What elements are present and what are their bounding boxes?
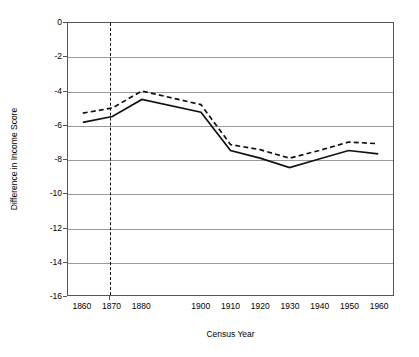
x-tick-label-1920: 1920 <box>251 302 270 311</box>
x-tick-label-1900: 1900 <box>191 302 210 311</box>
x-tick-label-1950: 1950 <box>340 302 359 311</box>
x-tick-label-1860: 1860 <box>72 302 91 311</box>
x-tick-label-1910: 1910 <box>221 302 240 311</box>
plot-area <box>67 22 394 296</box>
y-tick-label--6: -6 <box>54 121 62 130</box>
x-tick-label-1880: 1880 <box>132 302 151 311</box>
x-tick-mark-1869 <box>109 296 110 300</box>
y-tick-label--10: -10 <box>50 189 62 198</box>
x-tick-label-1960: 1960 <box>370 302 389 311</box>
x-tick-label-1870: 1870 <box>102 302 121 311</box>
income-score-line-chart: 0-2-4-6-8-10-12-14-16 186018701880190019… <box>0 0 419 357</box>
y-axis-title: Difference in Income Score <box>10 22 22 296</box>
y-tick-label--14: -14 <box>50 258 62 267</box>
x-tick-label-1930: 1930 <box>280 302 299 311</box>
y-tick-label--8: -8 <box>54 155 62 164</box>
y-tick-label--12: -12 <box>50 223 62 232</box>
x-axis-title: Census Year <box>67 330 394 339</box>
y-tick-label-0: 0 <box>57 18 62 27</box>
y-tick-label--16: -16 <box>50 292 62 301</box>
x-axis-tick-labels: 1860187018801900191019201930194019501960 <box>67 302 394 316</box>
series-line-dashed-series <box>83 91 378 158</box>
data-series-layer <box>68 23 393 295</box>
y-tick-label--2: -2 <box>54 52 62 61</box>
x-tick-label-1940: 1940 <box>310 302 329 311</box>
y-tick-label--4: -4 <box>54 86 62 95</box>
series-line-solid-series <box>83 99 378 167</box>
